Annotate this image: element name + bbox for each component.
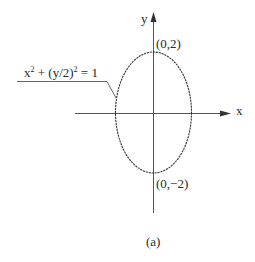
diagram-canvas — [0, 0, 255, 262]
equation-rhs: = 1 — [78, 65, 98, 80]
point-top-label: (0,2) — [156, 37, 181, 50]
point-bottom-label: (0,−2) — [156, 177, 188, 190]
figure-caption: (a) — [146, 235, 160, 248]
y-axis-label: y — [141, 12, 148, 25]
equation-leader-line — [17, 82, 116, 99]
x-axis-label: x — [236, 104, 243, 117]
equation-middle: + (y/2) — [35, 65, 74, 80]
equation-label: x2 + (y/2)2 = 1 — [24, 66, 98, 79]
y-axis-arrow-icon — [151, 12, 157, 22]
x-axis-arrow-icon — [220, 111, 231, 117]
